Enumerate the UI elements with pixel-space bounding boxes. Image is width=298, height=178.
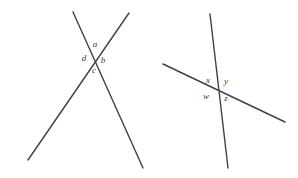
- angle-label-y: y: [224, 77, 228, 86]
- angle-label-d: d: [82, 54, 87, 63]
- left-intersecting-lines: [28, 12, 143, 168]
- geometry-figure-canvas: a b c d x y w z: [0, 0, 298, 178]
- angle-label-a: a: [93, 40, 98, 49]
- angle-label-z: z: [224, 94, 228, 103]
- right-intersecting-lines: [163, 14, 285, 168]
- angle-label-c: c: [92, 66, 96, 75]
- left-line-down-right: [73, 12, 143, 168]
- angle-label-b: b: [101, 56, 106, 65]
- angle-label-x: x: [206, 76, 210, 85]
- lines-layer: [0, 0, 298, 178]
- left-line-down-left: [28, 13, 129, 160]
- angle-label-w: w: [203, 92, 209, 101]
